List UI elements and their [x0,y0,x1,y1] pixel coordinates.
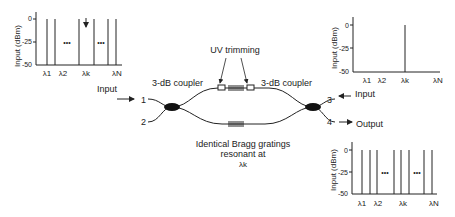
x-tick: λN [429,199,439,208]
x-tick: λ1 [358,199,367,208]
uv-trimming-label: UV trimming [210,45,260,55]
x-tick: λ1 [363,76,372,85]
x-tick: λk [399,199,408,208]
input-spectrum-chart-left: Input (dBm) 0 -25 -50 ••• ••• λ1 λ2 λk λ… [13,12,122,78]
coupler-right-icon [305,103,321,111]
ellipsis: ••• [63,39,71,46]
input-spectrum-chart-right: Input (dBm) 0 -25 -50 λ1 λ2 λk λN [330,17,443,85]
port-1: 1 [141,95,146,105]
ellipsis: ••• [97,39,105,46]
input-label-left: Input [97,84,118,94]
x-tick: λ2 [59,69,68,78]
y-axis-label: Input (dBm) [330,27,339,69]
y-axis-label: Input (dBm) [13,25,22,67]
output-label: Output [356,119,384,129]
x-tick: λk [82,69,91,78]
input-label-right: Input [355,89,376,99]
y-tick: 0 [344,147,348,154]
y-tick: -50 [22,61,32,68]
y-tick: 0 [28,15,32,22]
y-tick: -25 [22,38,32,45]
port-2: 2 [141,117,146,127]
port-3: 3 [327,95,332,105]
bragg-caption-line2: resonant at [220,149,266,159]
x-tick: λ2 [378,76,387,85]
uv-arrow-icon [241,58,247,83]
y-tick: -25 [338,169,348,176]
bragg-caption-line3: λk [239,160,248,169]
x-tick: λ2 [374,199,383,208]
uv-arrow-icon [220,58,226,83]
ellipsis: ••• [413,169,421,176]
coupler-right-label: 3-dB coupler [261,78,312,88]
x-tick: λN [433,76,443,85]
output-spectrum-chart: Input (dBm) 0 -25 -50 ••• ••• λ1 λ2 λk λ… [329,142,439,208]
add-drop-filter-diagram: Input (dBm) 0 -25 -50 ••• ••• λ1 λ2 λk λ… [0,0,455,217]
coupler-left-label: 3-dB coupler [152,78,203,88]
y-tick: 0 [345,22,349,29]
y-tick: -50 [338,190,348,197]
spectral-lines [362,150,432,194]
bragg-caption-line1: Identical Bragg gratings [196,139,291,149]
x-tick: λk [401,76,410,85]
x-tick: λN [112,69,122,78]
y-tick: -25 [339,45,349,52]
coupler-left-icon [164,103,180,111]
port-4: 4 [327,117,332,127]
y-axis-label: Input (dBm) [329,149,338,191]
spectral-lines [47,19,116,65]
y-tick: -50 [339,68,349,75]
x-tick: λ1 [43,69,52,78]
ellipsis: ••• [381,169,389,176]
